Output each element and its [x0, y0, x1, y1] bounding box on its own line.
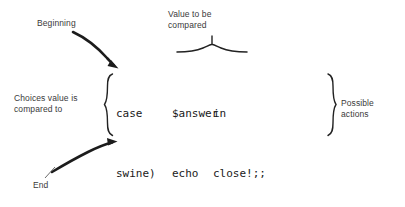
left-curly-brace-icon: [105, 74, 113, 136]
code-keyword: case: [116, 106, 168, 121]
code-command: echo: [172, 166, 199, 181]
code-line: swine) echo close!;;: [116, 166, 156, 181]
label-possible-actions: Possible actions: [341, 98, 374, 119]
code-block: case $answer in swine) echo close!;; slo…: [116, 61, 156, 207]
curved-arrow-up-right-icon: [52, 138, 118, 172]
label-beginning: Beginning: [37, 18, 76, 29]
code-keyword: swine): [116, 166, 168, 181]
code-argument: in: [213, 106, 226, 121]
horizontal-curly-brace-icon: [177, 36, 247, 52]
label-value-to-be-compared: Value to be compared: [168, 9, 211, 30]
case-statement-diagram: Beginning Value to be compared Choices v…: [0, 0, 405, 207]
label-choices-value: Choices value is compared to: [14, 93, 78, 114]
code-command: $answer: [172, 106, 218, 121]
right-curly-brace-icon: [328, 74, 336, 136]
code-line: case $answer in: [116, 106, 156, 121]
end-leader-line: [45, 167, 55, 178]
curved-arrow-right-icon: [73, 32, 119, 69]
label-end: End: [33, 180, 48, 191]
code-argument: close!;;: [213, 166, 266, 181]
